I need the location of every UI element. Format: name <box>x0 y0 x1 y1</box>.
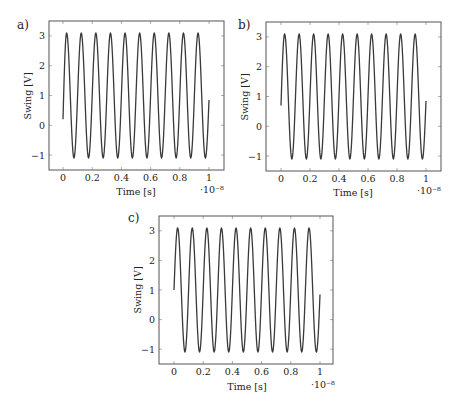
tick-label: 2 <box>256 61 262 72</box>
tick-label: 0 <box>149 314 155 325</box>
tick-label: 3 <box>39 30 45 41</box>
tick-label: 1 <box>317 366 323 377</box>
tick-label: 2 <box>39 60 45 71</box>
panel-c: c) Swing [V] Time [s] ·10⁻⁸ 00.20.40.60.… <box>128 211 335 392</box>
plot-frame <box>159 216 333 364</box>
tick-label: 3 <box>256 31 262 42</box>
panel-label: a) <box>17 18 29 32</box>
tick-label: 0.6 <box>360 173 375 184</box>
tick-label: 0.6 <box>143 172 158 183</box>
tick-label: 1 <box>39 90 45 101</box>
panel-label: c) <box>128 211 139 225</box>
panel-a: a) Swing [V] Time [s] ·10⁻⁸ 00.20.40.60.… <box>17 18 224 197</box>
figure: a) Swing [V] Time [s] ·10⁻⁸ 00.20.40.60.… <box>0 0 460 407</box>
y-axis-label: Swing [V] <box>239 73 250 120</box>
x-axis-label: Time [s] <box>227 381 266 392</box>
x-axis-exponent: ·10⁻⁸ <box>417 185 441 196</box>
panel-b: b) Swing [V] Time [s] ·10⁻⁸ 00.20.40.60.… <box>238 18 441 198</box>
swing-curve <box>281 34 426 159</box>
swing-curve <box>63 33 209 158</box>
tick-label: 0.4 <box>114 172 129 183</box>
tick-label: 1 <box>149 285 155 296</box>
tick-label: 0 <box>171 366 177 377</box>
tick-label: −1 <box>248 151 262 162</box>
tick-label: 0.8 <box>172 172 187 183</box>
tick-label: 0 <box>60 172 66 183</box>
tick-label: 1 <box>256 91 262 102</box>
y-axis-label: Swing [V] <box>132 266 143 313</box>
tick-label: 0 <box>278 173 284 184</box>
tick-label: 0.6 <box>254 366 269 377</box>
tick-label: 0.4 <box>225 366 240 377</box>
y-axis-label: Swing [V] <box>22 72 33 119</box>
tick-label: 0.2 <box>196 366 211 377</box>
x-axis-exponent: ·10⁻⁸ <box>200 184 224 195</box>
tick-label: 0.8 <box>283 366 298 377</box>
tick-label: −1 <box>31 150 45 161</box>
x-axis-label: Time [s] <box>333 187 372 198</box>
tick-label: 0.2 <box>302 173 317 184</box>
axis-ticks: 00.20.40.60.81−10123 <box>31 21 224 183</box>
tick-label: 0 <box>39 120 45 131</box>
panel-label: b) <box>238 18 250 32</box>
tick-label: 3 <box>149 225 155 236</box>
tick-label: 0.2 <box>85 172 100 183</box>
tick-label: 0 <box>256 121 262 132</box>
x-axis-label: Time [s] <box>116 186 155 197</box>
swing-curve <box>174 228 320 352</box>
tick-label: 0.8 <box>389 173 404 184</box>
x-axis-exponent: ·10⁻⁸ <box>311 379 335 390</box>
tick-label: −1 <box>141 344 155 355</box>
tick-label: 2 <box>149 255 155 266</box>
tick-label: 1 <box>206 172 212 183</box>
tick-label: 1 <box>423 173 429 184</box>
tick-label: 0.4 <box>331 173 346 184</box>
